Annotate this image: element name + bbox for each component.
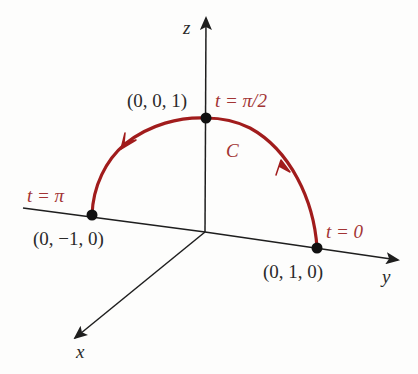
point-start-coord-label: (0, 1, 0) [263,261,323,283]
point-end [87,210,98,221]
diagram-canvas: z y x (0, 0, 1) (0, 1, 0) (0, −1, 0) t =… [0,0,418,374]
point-mid-coord-label: (0, 0, 1) [127,90,187,112]
point-start [312,243,323,254]
z-axis-line [205,18,206,232]
curve-name-label: C [226,140,239,161]
point-mid-param-label: t = π/2 [215,90,267,111]
y-axis-label: y [380,266,391,287]
point-end-coord-label: (0, −1, 0) [33,228,104,250]
x-axis-label: x [75,341,85,362]
curve-right-arc [206,118,317,248]
point-end-param-label: t = π [27,185,65,206]
z-axis-label: z [182,17,191,38]
point-mid [201,113,212,124]
y-axis-positive [205,232,398,260]
diagram-svg: z y x (0, 0, 1) (0, 1, 0) (0, −1, 0) t =… [0,0,418,374]
curve-left-arc [92,118,206,215]
axes [23,18,398,338]
point-start-param-label: t = 0 [326,221,364,242]
